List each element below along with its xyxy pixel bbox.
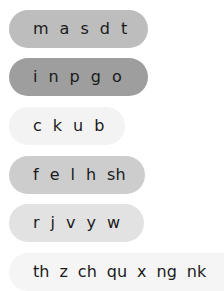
sound-l: l: [70, 167, 74, 183]
phonics-set-4: f e l h sh: [9, 156, 145, 194]
sound-ng: ng: [157, 264, 177, 280]
sound-o: o: [112, 69, 122, 85]
sound-t: t: [121, 21, 127, 37]
sound-i: i: [33, 69, 37, 85]
sound-ch: ch: [78, 264, 97, 280]
sound-qu: qu: [107, 264, 127, 280]
sound-n: n: [48, 69, 58, 85]
sound-d: d: [100, 21, 110, 37]
phonics-set-2: i n p g o: [9, 58, 148, 96]
sound-e: e: [50, 167, 60, 183]
phonics-set-3: c k u b: [9, 107, 125, 145]
phonics-set-1: m a s d t: [9, 10, 148, 48]
sound-w: w: [107, 215, 120, 231]
sound-j: j: [51, 215, 55, 231]
sound-u: u: [73, 118, 83, 134]
sound-g: g: [91, 69, 101, 85]
sound-k: k: [53, 118, 62, 134]
sound-a: a: [60, 21, 70, 37]
sound-r: r: [33, 215, 40, 231]
sound-y: y: [87, 215, 96, 231]
sound-x: x: [137, 264, 146, 280]
sound-f: f: [33, 167, 39, 183]
sound-c: c: [33, 118, 42, 134]
sound-b: b: [94, 118, 104, 134]
sound-m: m: [33, 21, 49, 37]
sound-p: p: [70, 69, 80, 85]
sound-nk: nk: [187, 264, 206, 280]
sound-s: s: [80, 21, 88, 37]
sound-z: z: [59, 264, 67, 280]
sound-th: th: [33, 264, 49, 280]
sound-v: v: [66, 215, 75, 231]
sound-h: h: [86, 167, 96, 183]
sound-sh: sh: [107, 167, 125, 183]
phonics-set-5: r j v y w: [9, 204, 144, 242]
phonics-set-6: th z ch qu x ng nk: [9, 253, 224, 291]
